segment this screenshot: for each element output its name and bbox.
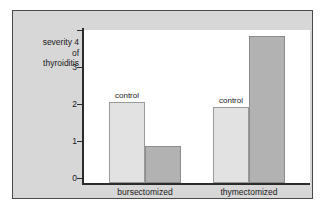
category-label-bursectomized: bursectomized (95, 187, 195, 197)
x-axis-line (82, 183, 310, 185)
y-tick-mark-3 (77, 67, 82, 68)
y-tick-label-1: 1 (63, 137, 77, 146)
y-tick-mark-0 (77, 178, 82, 179)
y-tick-label-0: 0 (63, 174, 77, 183)
annotation-control-bursectomized: control (105, 91, 149, 100)
y-axis-title-line-1: severity 4 (27, 37, 79, 48)
y-tick-label-2: 2 (63, 100, 77, 109)
y-tick-mark-2 (77, 104, 82, 105)
chart-panel: severity 4 of thyroiditis 3 2 1 0 contro… (12, 10, 313, 199)
bar-bursectomized-treated (145, 146, 181, 183)
y-tick-mark-1 (77, 141, 82, 142)
y-axis-title-line-2: of (27, 48, 79, 59)
annotation-control-thymectomized: control (209, 96, 253, 105)
bar-thymectomized-control (213, 107, 249, 183)
y-tick-label-3: 3 (63, 63, 77, 72)
category-label-thymectomized: thymectomized (199, 187, 299, 197)
chart-figure: severity 4 of thyroiditis 3 2 1 0 contro… (0, 0, 325, 210)
bar-bursectomized-control (109, 102, 145, 183)
y-axis-line (82, 28, 84, 185)
bar-thymectomized-treated (249, 36, 285, 183)
y-tick-mark-4 (77, 30, 82, 31)
